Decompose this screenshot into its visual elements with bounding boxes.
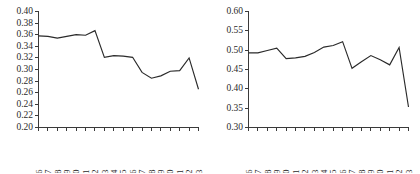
line-chart-left: 0.200.220.240.260.280.300.320.340.360.38…: [0, 0, 210, 173]
y-tick-label: 0.30: [226, 122, 243, 132]
x-tick-label: 2013: [404, 169, 414, 173]
y-tick-label: 0.24: [16, 99, 33, 109]
y-tick-label: 0.32: [16, 52, 33, 62]
data-series-line: [249, 42, 409, 107]
y-tick-label: 0.50: [226, 45, 243, 55]
y-tick-label: 0.40: [226, 83, 243, 93]
line-chart-right: 0.300.350.400.450.500.550.60199619971998…: [210, 0, 420, 173]
y-tick-label: 0.28: [16, 76, 33, 86]
chart-panel-right: 0.300.350.400.450.500.550.60199619971998…: [210, 0, 420, 173]
y-tick-label: 0.38: [16, 18, 33, 28]
y-tick-label: 0.35: [226, 103, 243, 113]
y-tick-label: 0.22: [16, 110, 33, 120]
x-axis-ticks: 1996199719981999200020012002200320042005…: [34, 128, 204, 174]
data-series-line: [39, 31, 199, 90]
y-tick-label: 0.26: [16, 87, 33, 97]
y-tick-label: 0.55: [226, 25, 243, 35]
y-tick-label: 0.20: [16, 122, 33, 132]
y-tick-label: 0.30: [16, 64, 33, 74]
x-axis-ticks: 1996199719981999200020012002200320042005…: [244, 128, 414, 174]
y-axis-ticks: 0.200.220.240.260.280.300.320.340.360.38…: [16, 6, 38, 132]
chart-panel-left: 0.200.220.240.260.280.300.320.340.360.38…: [0, 0, 210, 173]
figure-container: 0.200.220.240.260.280.300.320.340.360.38…: [0, 0, 420, 173]
y-tick-label: 0.60: [226, 6, 243, 16]
y-tick-label: 0.34: [16, 41, 33, 51]
y-tick-label: 0.40: [16, 6, 33, 16]
y-axis-ticks: 0.300.350.400.450.500.550.60: [226, 6, 248, 132]
y-tick-label: 0.36: [16, 29, 33, 39]
x-tick-label: 2013: [194, 169, 204, 173]
y-tick-label: 0.45: [226, 64, 243, 74]
